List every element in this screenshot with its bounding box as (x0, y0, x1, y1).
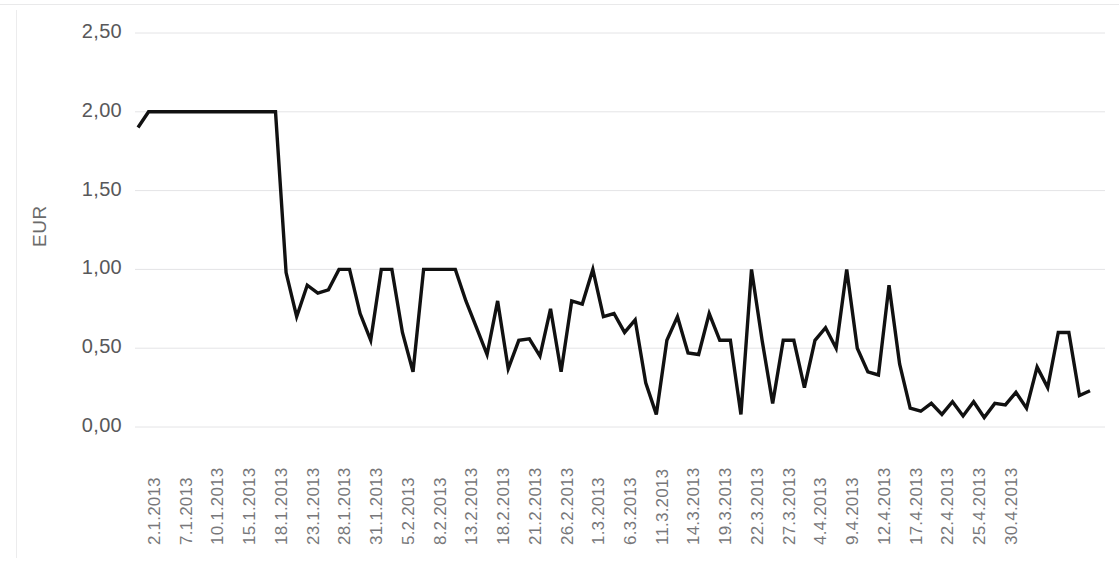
x-tick-label: 11.3.2013 (653, 469, 673, 545)
x-tick-label: 17.4.2013 (907, 468, 927, 545)
x-tick-label: 18.2.2013 (494, 468, 514, 545)
y-tick-label: 0,00 (50, 414, 122, 437)
x-tick-label: 1.3.2013 (589, 477, 609, 545)
x-tick-label: 21.2.2013 (526, 468, 546, 545)
gridlines (135, 33, 1105, 427)
x-tick-label: 12.4.2013 (875, 468, 895, 545)
x-tick-label: 19.3.2013 (716, 468, 736, 545)
x-tick-label: 14.3.2013 (684, 468, 704, 545)
y-tick-label: 2,00 (50, 99, 122, 122)
x-tick-label: 25.4.2013 (970, 468, 990, 545)
data-line (138, 112, 1090, 418)
data-line-group (138, 112, 1090, 418)
x-tick-label: 28.1.2013 (335, 468, 355, 545)
x-tick-label: 26.2.2013 (558, 468, 578, 545)
y-tick-label: 0,50 (50, 335, 122, 358)
x-tick-label: 31.1.2013 (367, 468, 387, 545)
y-tick-label: 2,50 (50, 20, 122, 43)
x-tick-label: 15.1.2013 (240, 468, 260, 545)
y-axis-title: EUR (28, 186, 52, 266)
x-tick-label: 2.1.2013 (145, 477, 165, 545)
x-tick-label: 7.1.2013 (177, 477, 197, 545)
x-tick-label: 22.4.2013 (938, 468, 958, 545)
eur-price-line-chart: EUR 0,000,501,001,502,002,50 2.1.20137.1… (0, 0, 1119, 568)
x-tick-label: 30.4.2013 (1002, 468, 1022, 545)
x-tick-label: 13.2.2013 (462, 468, 482, 545)
y-tick-label: 1,50 (50, 178, 122, 201)
x-tick-label: 4.4.2013 (811, 477, 831, 545)
x-tick-label: 9.4.2013 (843, 477, 863, 545)
x-tick-label: 23.1.2013 (304, 468, 324, 545)
x-tick-label: 27.3.2013 (780, 468, 800, 545)
x-tick-label: 10.1.2013 (208, 468, 228, 545)
y-tick-label: 1,00 (50, 256, 122, 279)
x-tick-label: 6.3.2013 (621, 477, 641, 545)
x-tick-label: 18.1.2013 (272, 468, 292, 545)
x-tick-label: 8.2.2013 (431, 477, 451, 545)
x-tick-label: 5.2.2013 (399, 477, 419, 545)
x-tick-label: 22.3.2013 (748, 468, 768, 545)
